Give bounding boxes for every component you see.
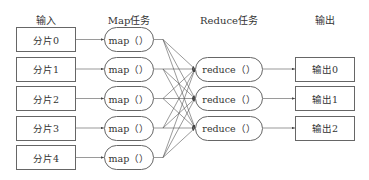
reduce-task-1: reduce（） [195, 86, 263, 111]
output-0: 输出0 [295, 57, 355, 82]
header-map-tasks: Map任务 [108, 12, 151, 27]
map-task-1: map（） [104, 57, 154, 82]
map-task-3: map（） [104, 116, 154, 141]
header-input: 输入 [36, 12, 56, 27]
map-task-0: map（） [104, 27, 154, 52]
input-split-2: 分片2 [16, 86, 76, 111]
input-split-1: 分片1 [16, 57, 76, 82]
input-split-4: 分片4 [16, 145, 76, 170]
reduce-task-0: reduce（） [195, 57, 263, 82]
output-2: 输出2 [295, 116, 355, 141]
output-1: 输出1 [295, 86, 355, 111]
reduce-task-2: reduce（） [195, 116, 263, 141]
input-split-0: 分片0 [16, 27, 76, 52]
header-reduce-tasks: Reduce任务 [200, 12, 258, 27]
map-task-4: map（） [104, 145, 154, 170]
map-task-2: map（） [104, 86, 154, 111]
input-split-3: 分片3 [16, 116, 76, 141]
header-output: 输出 [315, 12, 335, 27]
